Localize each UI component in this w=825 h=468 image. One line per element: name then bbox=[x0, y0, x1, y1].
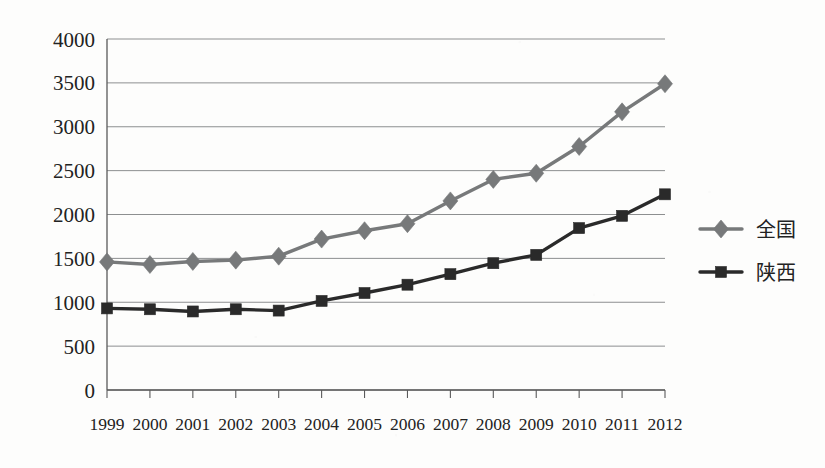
chart-legend: 全国陕西 bbox=[700, 219, 796, 284]
gridlines bbox=[107, 39, 665, 390]
data-point-marker bbox=[359, 288, 370, 299]
data-point-marker bbox=[658, 75, 673, 93]
y-axis-tick-label: 1000 bbox=[53, 291, 95, 315]
data-point-marker bbox=[102, 303, 113, 314]
x-axis-tick-label: 2010 bbox=[562, 414, 597, 434]
x-axis-tick-label: 2008 bbox=[476, 414, 511, 434]
y-axis-tick-label: 2500 bbox=[53, 159, 95, 183]
legend-marker-icon bbox=[716, 267, 727, 278]
legend-item-shaanxi[interactable]: 陕西 bbox=[700, 262, 796, 284]
chart-canvas: 05001000150020002500300035004000 1999200… bbox=[0, 0, 825, 468]
data-point-marker bbox=[400, 215, 415, 233]
data-point-marker bbox=[144, 304, 155, 315]
x-axis-tick-label: 2002 bbox=[218, 414, 253, 434]
x-axis-tick-label: 2006 bbox=[390, 414, 425, 434]
x-axis-tick-label: 2011 bbox=[605, 414, 639, 434]
data-series bbox=[100, 75, 673, 317]
data-point-marker bbox=[402, 279, 413, 290]
data-point-marker bbox=[314, 230, 329, 248]
legend-label: 陕西 bbox=[756, 262, 796, 284]
data-point-marker bbox=[185, 252, 200, 270]
y-axis-tick-label: 0 bbox=[85, 379, 96, 403]
y-axis-tick-label: 3000 bbox=[53, 115, 95, 139]
data-point-marker bbox=[529, 164, 544, 182]
x-axis-tick-label: 2000 bbox=[132, 414, 167, 434]
y-axis-tick-label: 1500 bbox=[53, 247, 95, 271]
series-national bbox=[100, 75, 673, 274]
data-point-marker bbox=[357, 222, 372, 240]
data-point-marker bbox=[228, 251, 243, 269]
data-point-marker bbox=[100, 253, 115, 271]
data-point-marker bbox=[271, 247, 286, 265]
x-axis-ticks bbox=[107, 390, 665, 398]
data-point-marker bbox=[488, 258, 499, 269]
y-axis-tick-label: 3500 bbox=[53, 71, 95, 95]
line-chart: 05001000150020002500300035004000 1999200… bbox=[0, 0, 825, 468]
data-point-marker bbox=[617, 210, 628, 221]
data-point-marker bbox=[486, 170, 501, 188]
data-point-marker bbox=[187, 306, 198, 317]
series-line bbox=[107, 194, 665, 311]
data-point-marker bbox=[660, 189, 671, 200]
legend-label: 全国 bbox=[756, 219, 796, 241]
x-axis-tick-label: 2004 bbox=[304, 414, 339, 434]
y-axis-tick-label: 500 bbox=[64, 335, 96, 359]
y-axis-tick-label: 2000 bbox=[53, 203, 95, 227]
series-line bbox=[107, 84, 665, 265]
data-point-marker bbox=[316, 295, 327, 306]
data-point-marker bbox=[230, 304, 241, 315]
data-point-marker bbox=[445, 269, 456, 280]
x-axis-tick-label: 2007 bbox=[433, 414, 468, 434]
series-shaanxi bbox=[102, 189, 671, 317]
x-axis-tick-labels: 1999200020012002200320042005200620072008… bbox=[90, 414, 683, 434]
data-point-marker bbox=[273, 305, 284, 316]
legend-item-national[interactable]: 全国 bbox=[700, 219, 796, 241]
y-axis-tick-label: 4000 bbox=[53, 28, 95, 52]
data-point-marker bbox=[531, 249, 542, 260]
x-axis-tick-label: 2012 bbox=[648, 414, 683, 434]
x-axis-tick-label: 2009 bbox=[519, 414, 554, 434]
data-point-marker bbox=[443, 192, 458, 210]
data-point-marker bbox=[574, 223, 585, 234]
x-axis-tick-label: 2001 bbox=[175, 414, 210, 434]
x-axis-tick-label: 1999 bbox=[90, 414, 125, 434]
legend-marker-icon bbox=[714, 220, 729, 238]
x-axis-tick-label: 2003 bbox=[261, 414, 296, 434]
y-axis-tick-labels: 05001000150020002500300035004000 bbox=[53, 28, 95, 403]
x-axis-tick-label: 2005 bbox=[347, 414, 382, 434]
